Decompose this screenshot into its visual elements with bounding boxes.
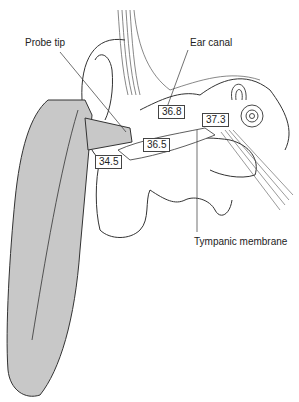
probe-tip [85, 118, 132, 150]
head-contour-lines [118, 10, 260, 95]
temp-label-tympanic: 37.3 [202, 113, 229, 127]
ear-diagram-drawing [0, 0, 299, 402]
temp-label-outer: 34.5 [95, 155, 122, 169]
ear-canal-label: Ear canal [190, 37, 232, 48]
tympanic-membrane-label: Tympanic membrane [194, 236, 287, 247]
thermometer-body [7, 100, 92, 396]
cochlea [231, 84, 263, 127]
temporal-bone [140, 79, 289, 177]
temp-label-canal-inner: 36.8 [158, 105, 185, 119]
probe-tip-label: Probe tip [25, 37, 65, 48]
nerve-lines [221, 130, 293, 210]
temp-label-canal-mid: 36.5 [143, 138, 170, 152]
